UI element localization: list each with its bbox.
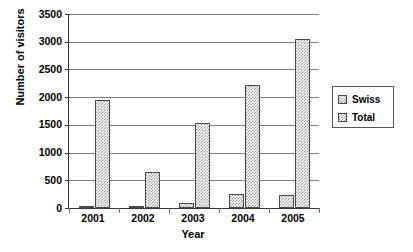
y-axis-tick-label: 3000	[22, 36, 62, 47]
y-axis-tick-label: 2500	[22, 64, 62, 75]
y-axis-tick-label: 500	[22, 175, 62, 186]
x-axis-title: Year	[68, 228, 318, 240]
y-axis-tick-mark	[65, 153, 70, 154]
bar-total-2004	[245, 85, 260, 208]
x-axis-tick-mark	[319, 208, 320, 213]
x-axis-tick-label: 2002	[118, 212, 168, 224]
y-axis-tick-mark	[65, 180, 70, 181]
legend-entry-swiss[interactable]: Swiss	[338, 91, 393, 107]
x-axis-tick-label: 2005	[268, 212, 318, 224]
bar-swiss-2005	[279, 195, 294, 208]
bar-total-2001	[95, 100, 110, 208]
bar-total-2003	[195, 123, 210, 208]
y-axis-tick-mark	[65, 97, 70, 98]
legend-entry-total[interactable]: Total	[338, 109, 393, 125]
y-axis-tick-label: 2000	[22, 92, 62, 103]
y-axis-tick-mark	[65, 42, 70, 43]
bar-total-2002	[145, 172, 160, 208]
y-axis-tick-label: 3500	[22, 9, 62, 20]
bar-swiss-2002	[129, 206, 144, 208]
x-axis-tick-label: 2001	[68, 212, 118, 224]
y-axis-tick-label: 1000	[22, 147, 62, 158]
bar-group	[79, 14, 110, 208]
bar-chart: Number of visitors 050010001500200025003…	[0, 0, 413, 252]
x-axis-tick-labels: 20012002200320042005	[68, 212, 318, 226]
bar-group	[179, 14, 210, 208]
legend-label: Swiss	[352, 94, 380, 105]
plot-area	[68, 14, 319, 209]
y-axis-tick-labels: 0500100015002000250030003500	[22, 8, 62, 212]
bar-total-2005	[295, 39, 310, 208]
y-axis-tick-mark	[65, 14, 70, 15]
y-axis-tick-mark	[65, 125, 70, 126]
y-axis-tick-label: 1500	[22, 119, 62, 130]
bar-swiss-2004	[229, 194, 244, 208]
legend-swatch-icon	[338, 113, 347, 122]
legend-swatch-icon	[338, 95, 347, 104]
bar-swiss-2003	[179, 203, 194, 208]
y-axis-tick-mark	[65, 69, 70, 70]
y-axis-tick-label: 0	[22, 203, 62, 214]
bar-group	[229, 14, 260, 208]
bar-group	[279, 14, 310, 208]
chart-legend: SwissTotal	[332, 86, 394, 128]
legend-label: Total	[352, 112, 375, 123]
x-axis-tick-label: 2003	[168, 212, 218, 224]
x-axis-tick-label: 2004	[218, 212, 268, 224]
bar-group	[129, 14, 160, 208]
bar-swiss-2001	[79, 206, 94, 208]
